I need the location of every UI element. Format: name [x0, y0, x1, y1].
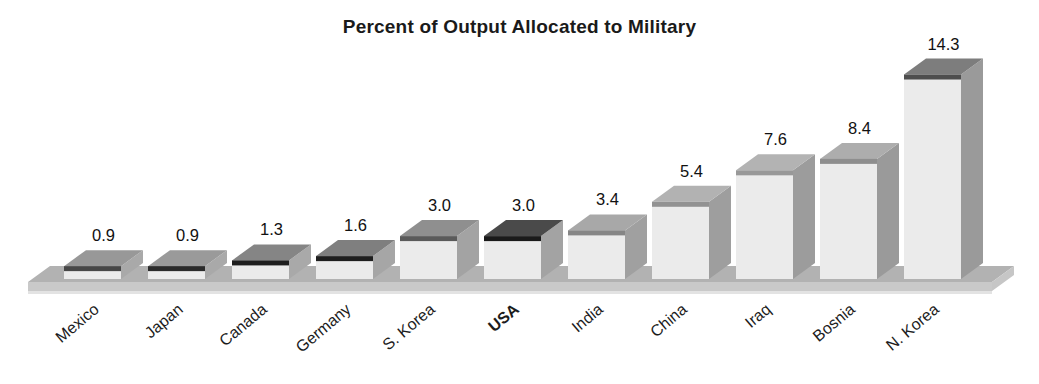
value-label: 1.6: [344, 216, 367, 234]
category-label-iraq: Iraq: [742, 300, 774, 331]
category-label-usa: USA: [485, 300, 522, 335]
value-label: 7.6: [764, 130, 787, 148]
bar-chart-3d: 0.9Mexico0.9Japan1.3Canada1.6Germany3.0S…: [0, 0, 1039, 384]
bar-top-edge: [568, 230, 625, 235]
bar-top-edge: [736, 170, 793, 175]
bar-side-face: [709, 186, 731, 279]
bar-top-edge: [820, 159, 877, 164]
value-label: 14.3: [927, 35, 959, 53]
bar-top-edge: [484, 236, 541, 241]
value-label: 1.3: [260, 220, 283, 238]
bar-front-face: [568, 230, 625, 279]
bar-usa: 3.0USA: [484, 196, 563, 335]
bar-top-edge: [316, 256, 373, 261]
category-label-mexico: Mexico: [52, 300, 102, 346]
value-label: 8.4: [848, 119, 871, 137]
bar-side-face: [877, 143, 899, 279]
bar-iraq: 7.6Iraq: [736, 130, 815, 331]
value-label: 5.4: [680, 162, 703, 180]
bar-bosnia: 8.4Bosnia: [810, 119, 899, 345]
bar-china: 5.4China: [647, 162, 731, 340]
bar-top-edge: [232, 260, 289, 265]
category-label-n-korea: N. Korea: [883, 300, 942, 354]
category-label-canada: Canada: [216, 300, 270, 349]
bar-front-face: [652, 202, 709, 279]
bar-top-edge: [64, 266, 121, 271]
value-label: 3.0: [428, 196, 451, 214]
bar-side-face: [793, 154, 815, 279]
category-label-s-korea: S. Korea: [379, 300, 438, 353]
bar-top-edge: [652, 202, 709, 207]
bar-front-face: [736, 170, 793, 279]
bar-side-face: [961, 59, 983, 279]
value-label: 3.4: [596, 190, 619, 208]
chart-canvas: Percent of Output Allocated to Military …: [0, 0, 1039, 384]
bar-india: 3.4India: [568, 190, 647, 335]
value-label: 0.9: [92, 226, 115, 244]
bar-top-edge: [904, 75, 961, 80]
platform-front-face: [28, 282, 992, 291]
value-label: 0.9: [176, 226, 199, 244]
platform-shadow: [28, 291, 992, 294]
bar-front-face: [484, 236, 541, 279]
bar-top-edge: [400, 236, 457, 241]
bar-front-face: [820, 159, 877, 279]
bar-top-edge: [148, 266, 205, 271]
category-label-japan: Japan: [142, 300, 186, 341]
category-label-germany: Germany: [293, 300, 354, 355]
bar-front-face: [904, 75, 961, 279]
bar-front-face: [400, 236, 457, 279]
category-label-china: China: [647, 300, 690, 340]
value-label: 3.0: [512, 196, 535, 214]
category-label-bosnia: Bosnia: [810, 300, 858, 345]
category-label-india: India: [568, 300, 606, 335]
